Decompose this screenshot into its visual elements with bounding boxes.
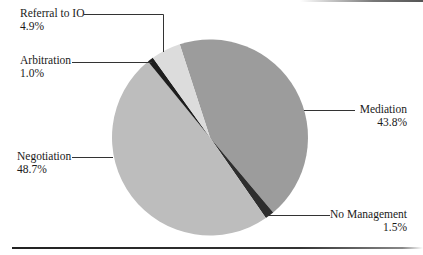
label-arbitration-name: Arbitration — [20, 54, 71, 67]
label-mediation: Mediation 43.8% — [357, 103, 407, 129]
label-arbitration: Arbitration 1.0% — [20, 54, 71, 80]
label-referral-name: Referral to IO — [20, 7, 85, 20]
bottom-rule — [12, 247, 423, 249]
label-negotiation-pct: 48.7% — [17, 163, 71, 176]
leader-line-referral — [84, 15, 164, 53]
label-negotiation: Negotiation 48.7% — [17, 150, 71, 176]
pie-slices — [112, 39, 308, 235]
label-no-management: No Management 1.5% — [330, 208, 407, 234]
label-mediation-pct: 43.8% — [357, 116, 407, 129]
label-arbitration-pct: 1.0% — [20, 67, 71, 80]
label-no-management-pct: 1.5% — [330, 221, 407, 234]
label-mediation-name: Mediation — [357, 103, 407, 116]
label-no-management-name: No Management — [330, 208, 407, 221]
label-negotiation-name: Negotiation — [17, 150, 71, 163]
label-referral-pct: 4.9% — [20, 20, 85, 33]
label-referral: Referral to IO 4.9% — [20, 7, 85, 33]
